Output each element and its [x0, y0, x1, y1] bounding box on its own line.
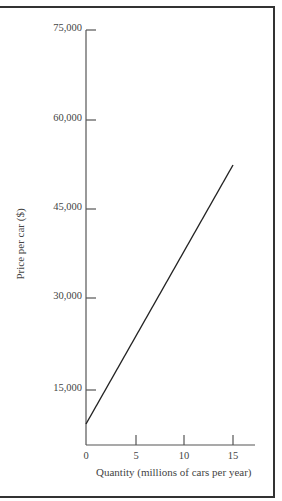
- y-tick-label: 75,000: [22, 22, 82, 33]
- supply-line: [86, 165, 233, 424]
- y-tick-label: 15,000: [22, 382, 82, 393]
- y-axis-label: Price per car ($): [14, 184, 26, 304]
- y-tick-label: 30,000: [22, 290, 82, 301]
- x-axis-label: Quantity (millions of cars per year): [96, 466, 251, 478]
- y-tick-label: 60,000: [22, 112, 82, 123]
- x-tick-label: 10: [174, 450, 194, 461]
- x-tick-label: 15: [223, 450, 243, 461]
- y-tick-label: 45,000: [22, 201, 82, 212]
- x-tick-label: 0: [76, 450, 96, 461]
- x-tick-label: 5: [126, 450, 146, 461]
- chart-plot: [0, 0, 282, 501]
